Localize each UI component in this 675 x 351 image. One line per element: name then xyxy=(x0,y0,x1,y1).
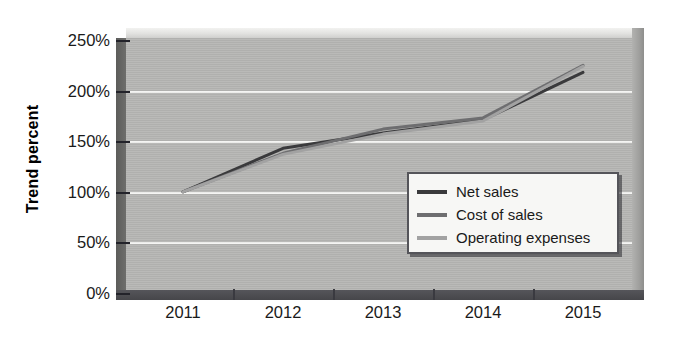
x-tick-mark xyxy=(333,289,335,300)
x-tick-mark xyxy=(533,289,535,300)
plot-box xyxy=(116,28,644,300)
x-tick-mark xyxy=(433,289,435,300)
legend-item[interactable]: Cost of sales xyxy=(417,203,609,226)
legend: Net salesCost of salesOperating expenses xyxy=(407,172,619,254)
y-tick-label: 0% xyxy=(86,284,110,303)
legend-item[interactable]: Net sales xyxy=(417,180,609,203)
legend-swatch-icon xyxy=(417,190,447,194)
y-tick-mark xyxy=(116,141,130,143)
y-tick-label: 100% xyxy=(68,182,110,201)
x-tick-label: 2015 xyxy=(565,303,602,322)
legend-swatch-icon xyxy=(417,213,447,217)
plot-box-right-face xyxy=(632,28,644,300)
x-tick-label: 2013 xyxy=(365,303,402,322)
x-tick-label: 2011 xyxy=(165,303,200,322)
trend-percent-line-chart: Trend percent 0%50%100%150%200%250% 2011… xyxy=(0,0,675,351)
y-tick-mark xyxy=(116,293,130,295)
y-tick-mark xyxy=(116,242,130,244)
plot-box-top-face xyxy=(126,28,644,38)
plot-box-left-wall xyxy=(116,38,126,296)
gridline xyxy=(126,141,632,143)
legend-label: Net sales xyxy=(456,184,519,199)
legend-label: Operating expenses xyxy=(456,230,590,245)
x-tick-label: 2012 xyxy=(265,303,302,322)
y-tick-label: 250% xyxy=(68,31,110,50)
plot-box-floor xyxy=(116,290,644,300)
y-tick-mark xyxy=(116,192,130,194)
x-tick-mark xyxy=(233,289,235,300)
legend-item[interactable]: Operating expenses xyxy=(417,226,609,249)
y-tick-label: 150% xyxy=(68,132,110,151)
legend-label: Cost of sales xyxy=(456,207,543,222)
gridline xyxy=(126,91,632,93)
x-tick-label: 2014 xyxy=(465,303,502,322)
y-tick-label: 200% xyxy=(68,81,110,100)
y-axis-tick-labels: 0%50%100%150%200%250% xyxy=(28,0,110,351)
y-tick-mark xyxy=(116,40,130,42)
y-tick-mark xyxy=(116,91,130,93)
y-tick-label: 50% xyxy=(77,233,110,252)
legend-swatch-icon xyxy=(417,236,447,240)
